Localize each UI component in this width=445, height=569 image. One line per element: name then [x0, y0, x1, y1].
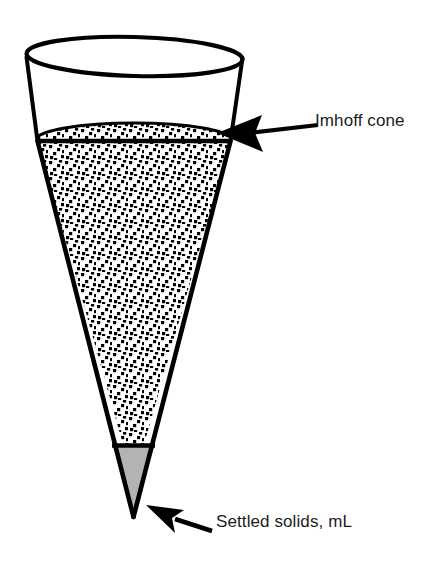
suspension-body [38, 141, 231, 447]
suspension-stipple-fill [38, 141, 231, 447]
imhoff-cone-label: Imhoff cone [315, 111, 405, 131]
settled-solids-arrow [146, 505, 212, 533]
settled-solids-label: Settled solids, mL [216, 512, 352, 532]
settled-solids-arrow-shaft [175, 519, 212, 531]
imhoff-cone-diagram [0, 0, 445, 569]
figure-canvas: Imhoff cone Settled solids, mL [0, 0, 445, 569]
imhoff-cone-arrow-shaft [248, 125, 318, 133]
